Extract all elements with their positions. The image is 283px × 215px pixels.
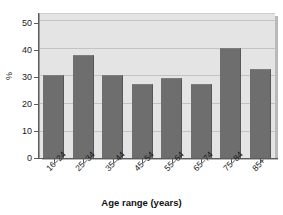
x-axis-title: Age range (years) [0,197,283,208]
y-tick-label-20: 20 [22,100,32,109]
y-tick-mark-40 [34,50,39,51]
bar-16-24[interactable] [43,75,64,158]
y-tick-label-10: 10 [22,127,32,136]
bar-85plus[interactable] [250,69,271,159]
y-tick-mark-50 [34,23,39,24]
y-tick-mark-10 [34,131,39,132]
bar-55-64[interactable] [161,78,182,158]
bar-65-74[interactable] [191,84,212,158]
bars-group [39,13,275,158]
bar-35-44[interactable] [102,75,123,158]
y-axis-line [38,13,39,159]
bar-25-34[interactable] [73,55,94,158]
y-tick-mark-0 [34,158,39,159]
y-axis-title: % [4,72,14,80]
y-tick-mark-20 [34,104,39,105]
y-tick-label-50: 50 [22,19,32,28]
y-tick-mark-30 [34,77,39,78]
y-tick-label-30: 30 [22,73,32,82]
bar-75-84[interactable] [220,48,241,158]
y-tick-label-0: 0 [27,154,32,163]
y-tick-label-40: 40 [22,46,32,55]
bar-45-54[interactable] [132,84,153,158]
bar-chart-figure: 50 40 30 20 10 0 % 16–2425–3435–4445–545… [0,0,283,215]
